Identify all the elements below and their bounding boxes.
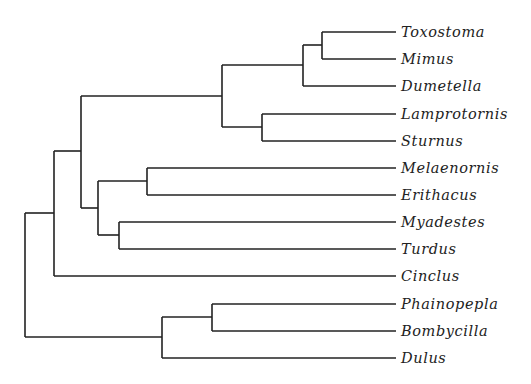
leaf-label-mimus: Mimus: [401, 51, 454, 67]
leaf-label-myadestes: Myadestes: [401, 214, 485, 230]
leaf-label-dumetella: Dumetella: [401, 78, 482, 94]
leaf-label-erithacus: Erithacus: [401, 187, 477, 203]
leaf-label-phainopepla: Phainopepla: [401, 296, 498, 312]
leaf-label-lamprotornis: Lamprotornis: [401, 106, 508, 122]
leaf-label-sturnus: Sturnus: [401, 133, 463, 149]
leaf-label-melaenornis: Melaenornis: [401, 160, 499, 176]
leaf-label-dulus: Dulus: [401, 350, 446, 366]
leaf-label-turdus: Turdus: [401, 241, 457, 257]
leaf-label-cinclus: Cinclus: [401, 268, 460, 284]
leaf-label-bombycilla: Bombycilla: [401, 323, 488, 339]
leaf-label-toxostoma: Toxostoma: [401, 24, 485, 40]
